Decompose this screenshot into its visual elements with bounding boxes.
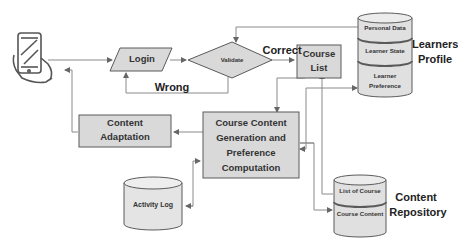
gen-label-3: Preference <box>203 147 299 160</box>
personal-data-label: Personal Data <box>358 24 412 32</box>
learners-profile-title-2: Profile <box>412 52 458 67</box>
edge-label-correct: Correct <box>262 43 302 58</box>
course-list-label-1: Course <box>297 48 341 61</box>
gen-label-1: Course Content <box>203 117 299 130</box>
gen-label-4: Computation <box>203 162 299 175</box>
edge-label-wrong: Wrong <box>152 80 192 95</box>
course-list-label-2: List <box>297 62 341 75</box>
course-content-label: Course Content <box>334 210 386 218</box>
learners-profile-title-1: Learners <box>412 37 458 52</box>
learner-pref-label-1: Learner <box>358 72 412 80</box>
activity-log-label: Activity Log <box>124 200 182 209</box>
list-of-course-label: List of Course <box>334 187 386 195</box>
learner-pref-label-2: Preference <box>358 82 412 90</box>
content-repository-title-2: Repository <box>388 205 448 220</box>
content-repository-title-1: Content <box>388 190 444 205</box>
adaptation-label-1: Content <box>79 117 171 130</box>
adaptation-label-2: Adaptation <box>79 131 171 144</box>
gen-label-2: Generation and <box>203 132 299 145</box>
smartphone-hand-icon <box>13 33 52 83</box>
content-repository-db <box>334 175 386 237</box>
learner-state-label: Learner State <box>358 47 412 55</box>
login-label: Login <box>116 53 168 66</box>
validate-label: Validate <box>208 56 256 64</box>
